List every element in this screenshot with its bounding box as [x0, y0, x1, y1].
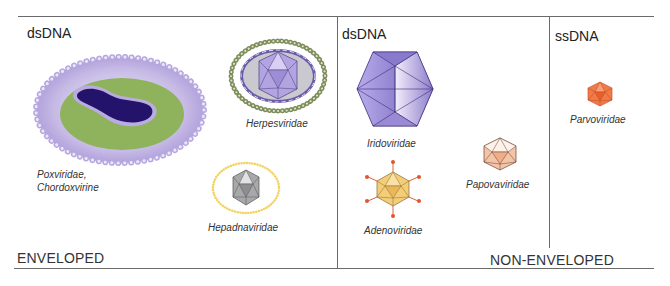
genome-header-enveloped-dsdna: dsDNA: [27, 25, 71, 41]
parvoviridae-label: Parvoviridae: [570, 113, 626, 126]
poxviridae-label: Poxviridae, Chordoxvirine: [37, 168, 99, 194]
divider-dsdna-ssdna: [549, 16, 550, 248]
iridoviridae-capsid-icon: [355, 50, 435, 128]
herpesviridae-virion-icon: [228, 38, 328, 114]
hepadnaviridae-label: Hepadnaviridae: [208, 221, 278, 234]
genome-header-ssdna: ssDNA: [555, 28, 599, 44]
iridoviridae-label: Iridoviridae: [367, 137, 416, 150]
section-label-enveloped: ENVELOPED: [17, 250, 104, 266]
section-label-non-enveloped: NON-ENVELOPED: [490, 252, 614, 268]
parvoviridae-capsid-icon: [586, 81, 614, 107]
poxviridae-virion-icon: [30, 52, 210, 168]
herpesviridae-label: Herpesviridae: [246, 117, 308, 130]
hepadnaviridae-virion-icon: [210, 160, 282, 216]
frame-top-line: [18, 16, 654, 17]
papovaviridae-capsid-icon: [481, 136, 519, 172]
genome-header-nonenveloped-dsdna: dsDNA: [342, 26, 386, 42]
frame-bottom-line: [14, 268, 654, 269]
adenoviridae-label: Adenoviridae: [364, 224, 422, 237]
papovaviridae-label: Papovaviridae: [466, 178, 529, 191]
adenoviridae-capsid-icon: [362, 158, 424, 220]
divider-enveloped-nonenveloped: [337, 16, 338, 268]
